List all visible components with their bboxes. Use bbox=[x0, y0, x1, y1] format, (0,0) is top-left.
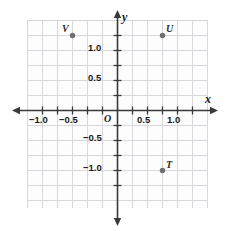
point-label-U: U bbox=[166, 23, 173, 34]
y-axis-label: y bbox=[122, 10, 127, 25]
y-axis-arrow-up bbox=[114, 10, 121, 18]
point-label-V: V bbox=[62, 23, 69, 34]
x-tick-label-1: 1.0 bbox=[167, 114, 180, 125]
y-tick-label-0-5: 0.5 bbox=[88, 72, 101, 83]
x-axis-arrow-left bbox=[12, 107, 20, 114]
data-point-U bbox=[160, 33, 165, 38]
y-axis-arrow-down bbox=[114, 218, 121, 226]
y-tick-label-neg-0-5: −0.5 bbox=[83, 132, 102, 143]
x-tick-label-neg-1: −1.0 bbox=[29, 114, 48, 125]
data-point-V bbox=[70, 33, 75, 38]
y-tick-label-neg-1: −1.0 bbox=[83, 162, 102, 173]
x-axis-label: x bbox=[205, 92, 211, 107]
origin-label: O bbox=[104, 113, 111, 124]
x-axis-arrow-right bbox=[210, 107, 218, 114]
x-tick-label-0-5: 0.5 bbox=[137, 114, 150, 125]
data-point-T bbox=[160, 168, 165, 173]
y-tick-label-1: 1.0 bbox=[88, 42, 101, 53]
point-label-T: T bbox=[166, 159, 172, 170]
x-tick-label-neg-0-5: −0.5 bbox=[59, 114, 78, 125]
coordinate-plane-figure: x y O −1.0 −0.5 0.5 1.0 1.0 0.5 −0.5 −1.… bbox=[0, 0, 228, 231]
